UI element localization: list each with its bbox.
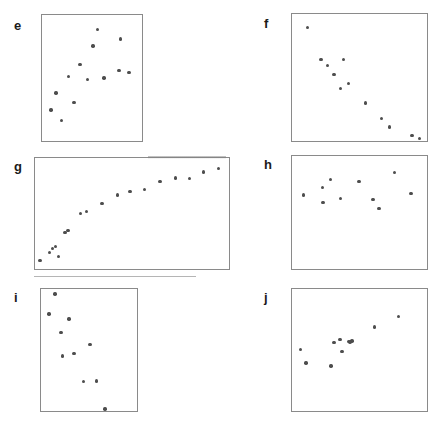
data-point: [299, 348, 302, 351]
data-point: [38, 259, 41, 262]
data-point: [127, 71, 130, 74]
data-point: [54, 91, 57, 94]
data-point: [304, 361, 307, 364]
scatter-panel-i: [40, 288, 138, 412]
data-point: [397, 315, 400, 318]
data-point: [78, 63, 81, 66]
data-point: [116, 193, 119, 196]
data-point: [54, 245, 57, 248]
data-point: [338, 338, 341, 341]
data-point: [306, 26, 309, 29]
panel-label-g: g: [14, 160, 22, 173]
data-point: [59, 331, 62, 334]
data-point: [410, 134, 413, 137]
data-point: [342, 58, 345, 61]
data-point: [96, 28, 99, 31]
data-point: [348, 340, 351, 343]
data-point: [100, 202, 103, 205]
panel-label-j: j: [264, 291, 268, 304]
data-point: [117, 69, 120, 72]
data-point: [67, 317, 70, 320]
scan-artifact-rule: [34, 276, 196, 277]
data-point: [128, 190, 131, 193]
scatter-panel-h: [291, 155, 428, 270]
data-point: [86, 78, 89, 81]
data-point: [357, 180, 360, 183]
data-point: [393, 171, 396, 174]
panel-label-e: e: [14, 19, 21, 32]
data-point: [67, 75, 70, 78]
data-point: [409, 192, 412, 195]
data-point: [188, 177, 191, 180]
data-point: [332, 73, 335, 76]
data-point: [388, 125, 391, 128]
panel-label-h: h: [264, 158, 272, 171]
data-point: [329, 364, 332, 367]
data-point: [174, 176, 177, 179]
data-point: [103, 407, 106, 410]
data-point: [418, 137, 421, 140]
data-point: [48, 251, 51, 254]
data-point: [60, 119, 63, 122]
data-point: [85, 210, 88, 213]
data-point: [72, 101, 75, 104]
scatter-panel-f: [291, 13, 428, 142]
data-point: [102, 76, 105, 79]
data-point: [217, 167, 220, 170]
data-point: [91, 44, 94, 47]
panel-label-i: i: [14, 291, 18, 304]
data-point: [79, 212, 82, 215]
data-point: [373, 325, 376, 328]
data-point: [66, 229, 69, 232]
data-point: [143, 188, 146, 191]
data-point: [302, 193, 305, 196]
data-point: [49, 108, 52, 111]
data-point: [329, 178, 332, 181]
data-point: [82, 380, 85, 383]
data-point: [47, 312, 50, 315]
data-point: [158, 180, 161, 183]
scatter-panel-g: [34, 157, 230, 270]
data-point: [95, 379, 98, 382]
data-point: [339, 197, 342, 200]
data-point: [319, 58, 322, 61]
data-point: [339, 87, 342, 90]
data-point: [380, 117, 383, 120]
data-point: [326, 64, 329, 67]
scatter-panel-e: [41, 14, 143, 142]
data-point: [371, 198, 374, 201]
data-point: [364, 101, 367, 104]
scatter-panel-j: [291, 288, 428, 412]
data-point: [53, 292, 56, 295]
data-point: [57, 255, 60, 258]
data-point: [88, 343, 91, 346]
data-point: [321, 186, 324, 189]
data-point: [321, 201, 324, 204]
panel-label-f: f: [264, 17, 268, 30]
data-point: [332, 341, 335, 344]
data-point: [119, 37, 122, 40]
data-point: [347, 82, 350, 85]
data-point: [61, 354, 64, 357]
data-point: [72, 352, 75, 355]
scatter-plot-figure: efghij: [0, 0, 445, 425]
data-point: [377, 207, 380, 210]
data-point: [202, 170, 205, 173]
data-point: [340, 350, 343, 353]
